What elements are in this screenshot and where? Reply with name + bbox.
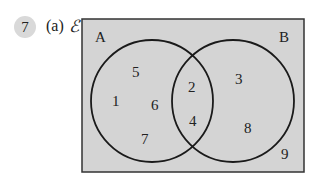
element-only-a: 6 [151, 97, 159, 113]
element-outside: 9 [281, 146, 289, 162]
element-intersection: 2 [188, 79, 196, 95]
element-only-a: 1 [112, 93, 120, 109]
element-only-b: 3 [235, 71, 243, 87]
venn-diagram: A B 5 1 6 7 2 4 3 8 9 [0, 0, 319, 184]
element-only-b: 8 [244, 120, 252, 136]
set-b-label: B [279, 29, 289, 45]
set-a-label: A [95, 29, 106, 45]
element-only-a: 7 [141, 131, 149, 147]
element-intersection: 4 [189, 113, 197, 129]
element-only-a: 5 [132, 64, 140, 80]
